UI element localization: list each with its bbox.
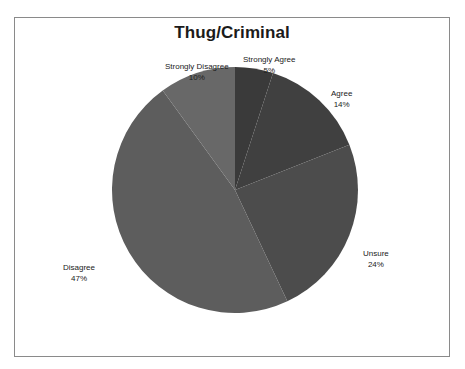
- pie-label-disagree-name: Disagree: [63, 263, 95, 272]
- pie-label-strongly-agree-value: 5%: [243, 65, 295, 76]
- pie-label-strongly-disagree-name: Strongly Disagree: [165, 62, 229, 71]
- pie-svg: [111, 66, 359, 314]
- pie-label-agree-value: 14%: [331, 99, 352, 110]
- chart-frame: Thug/Criminal Strongly Agree 5% Agree 14…: [14, 17, 450, 357]
- pie-label-disagree-value: 47%: [63, 273, 95, 284]
- pie-chart: Strongly Agree 5% Agree 14% Unsure 24% D…: [15, 18, 451, 358]
- pie-label-strongly-disagree-value: 10%: [165, 72, 229, 83]
- pie-label-unsure-name: Unsure: [363, 249, 389, 258]
- pie-slice-group: [112, 67, 358, 313]
- pie-label-unsure: Unsure 24%: [363, 248, 389, 270]
- pie-label-strongly-agree: Strongly Agree 5%: [243, 54, 295, 76]
- pie-label-agree-name: Agree: [331, 89, 352, 98]
- pie-label-strongly-disagree: Strongly Disagree 10%: [165, 61, 229, 83]
- pie-label-unsure-value: 24%: [363, 259, 389, 270]
- pie-label-disagree: Disagree 47%: [63, 262, 95, 284]
- pie-label-agree: Agree 14%: [331, 88, 352, 110]
- pie-label-strongly-agree-name: Strongly Agree: [243, 55, 295, 64]
